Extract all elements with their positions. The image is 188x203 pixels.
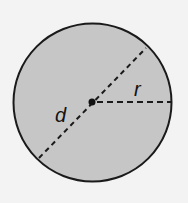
circle-diagram: d r	[0, 0, 188, 203]
center-point	[89, 99, 96, 106]
diameter-label: d	[55, 104, 67, 126]
